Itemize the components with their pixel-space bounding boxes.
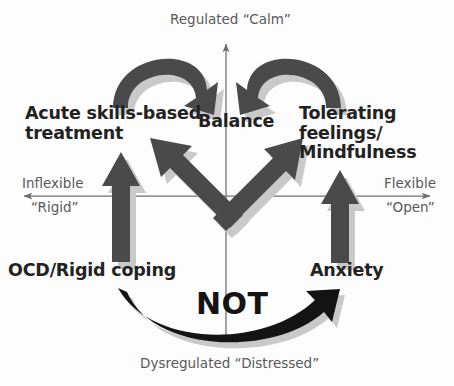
axis-label-left-primary: Inflexible (22, 176, 83, 191)
axis-label-left-secondary: “Rigid” (31, 200, 79, 215)
quadrant-label-top-right: Tolerating feelings/ Mindfulness (299, 104, 416, 163)
quadrant-label-bottom-left: OCD/Rigid coping (8, 261, 176, 281)
quadrant-label-top-center: Balance (198, 112, 274, 132)
axis-label-bottom: Dysregulated “Distressed” (140, 356, 319, 371)
diagram-canvas: Regulated “Calm” Dysregulated “Distresse… (0, 0, 454, 386)
diagram-graphics (0, 0, 454, 386)
not-annotation-label: NOT (196, 287, 269, 321)
axis-label-top: Regulated “Calm” (170, 12, 291, 27)
axis-label-right-primary: Flexible (384, 176, 436, 191)
quadrant-label-top-left: Acute skills-based treatment (25, 104, 201, 143)
quadrant-label-bottom-right: Anxiety (310, 261, 384, 281)
axis-label-right-secondary: “Open” (386, 200, 435, 215)
